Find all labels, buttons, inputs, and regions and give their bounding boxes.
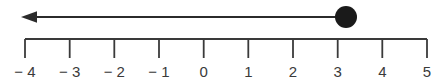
tick-label-0: 0 [200, 63, 208, 80]
tick-label--3: − 3 [59, 63, 80, 80]
tick-label-2: 2 [289, 63, 297, 80]
tick-label-3: 3 [334, 63, 342, 80]
closed-dot-marker [335, 6, 357, 28]
tick-label--1: − 1 [148, 63, 169, 80]
tick-labels: − 4 − 3 − 2 − 1 0 1 2 3 4 5 [14, 63, 431, 80]
tick-label-4: 4 [378, 63, 386, 80]
number-line-graphic: − 4 − 3 − 2 − 1 0 1 2 3 4 5 [0, 0, 438, 82]
tick-label--4: − 4 [14, 63, 35, 80]
tick-label-1: 1 [244, 63, 252, 80]
leftward-ray [21, 11, 346, 23]
number-line-figure: − 4 − 3 − 2 − 1 0 1 2 3 4 5 [0, 0, 438, 82]
tick-marks [25, 39, 427, 58]
ray-arrowhead-icon [21, 11, 37, 23]
tick-label--2: − 2 [104, 63, 125, 80]
tick-label-5: 5 [423, 63, 431, 80]
